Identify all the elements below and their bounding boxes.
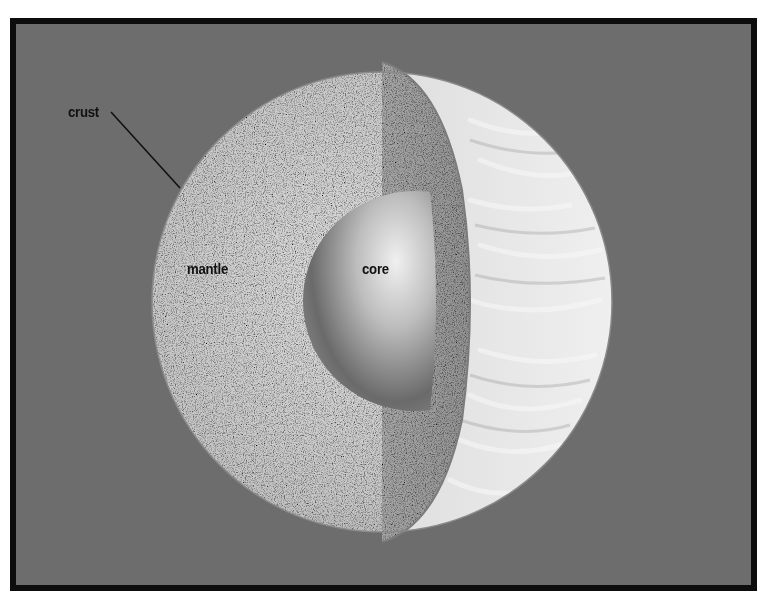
planet-cutaway bbox=[0, 0, 764, 607]
crust-leader-line bbox=[111, 112, 180, 188]
label-crust: crust bbox=[68, 103, 99, 120]
label-core: core bbox=[362, 260, 389, 277]
label-mantle: mantle bbox=[187, 260, 228, 277]
